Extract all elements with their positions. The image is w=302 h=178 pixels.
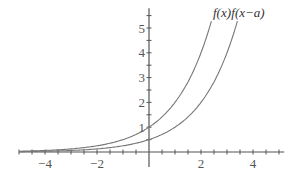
x-tick-label: 4 bbox=[250, 156, 257, 171]
y-tick-label: 3 bbox=[139, 70, 146, 85]
y-tick-label: 4 bbox=[139, 45, 146, 60]
curve-label: f(x) bbox=[213, 5, 231, 20]
curve-label: f(x−a) bbox=[231, 5, 264, 20]
x-tick-label: −2 bbox=[90, 156, 104, 171]
axes bbox=[19, 8, 284, 167]
y-tick-label: 1 bbox=[139, 120, 146, 135]
curve-f-x-minus-a bbox=[19, 21, 237, 152]
x-tick-label: 2 bbox=[198, 156, 205, 171]
curve-f-x bbox=[19, 21, 211, 151]
function-plot: −4−22412345f(x)f(x−a) bbox=[0, 0, 302, 178]
x-tick-label: −4 bbox=[38, 156, 52, 171]
curves bbox=[19, 21, 237, 152]
y-tick-label: 5 bbox=[139, 21, 146, 36]
y-tick-label: 2 bbox=[139, 95, 146, 110]
labels: −4−22412345f(x)f(x−a) bbox=[38, 5, 265, 171]
